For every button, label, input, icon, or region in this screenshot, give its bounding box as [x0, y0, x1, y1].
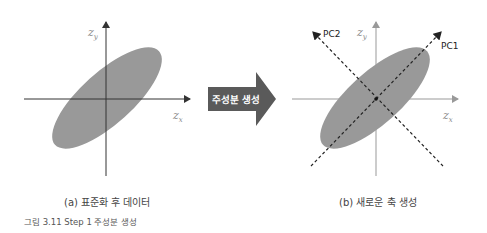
panel-a-plot: zy zx	[24, 22, 190, 176]
y-axis-label-a: zy	[87, 26, 99, 41]
transition-label: 주성분 생성	[212, 94, 260, 105]
figure-caption: 그림 3.11 Step 1 주성분 생성	[24, 215, 137, 227]
transition-arrow: 주성분 생성	[208, 72, 276, 126]
y-axis-label-b: zy	[356, 26, 368, 41]
x-axis-label-b: zx	[442, 109, 453, 124]
pc1-label: PC1	[441, 41, 458, 51]
pc2-label: PC2	[323, 29, 340, 39]
data-ellipse-a	[38, 32, 177, 164]
x-axis-label-a: zx	[172, 109, 183, 124]
panel-b-plot: PC2 PC1 zy zx	[292, 22, 458, 176]
panel-a-caption: (a) 표준화 후 데이터	[64, 194, 150, 209]
panel-b-caption: (b) 새로운 축 생성	[339, 194, 417, 209]
